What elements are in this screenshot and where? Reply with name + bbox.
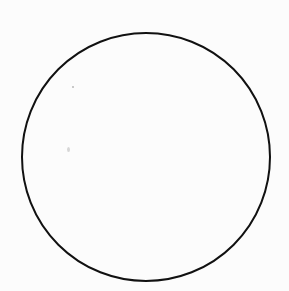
scan-speck bbox=[72, 86, 74, 88]
circle-shape bbox=[22, 33, 270, 281]
diagram-svg bbox=[0, 0, 289, 291]
scan-speck bbox=[67, 147, 70, 152]
diagram-canvas bbox=[0, 0, 289, 291]
